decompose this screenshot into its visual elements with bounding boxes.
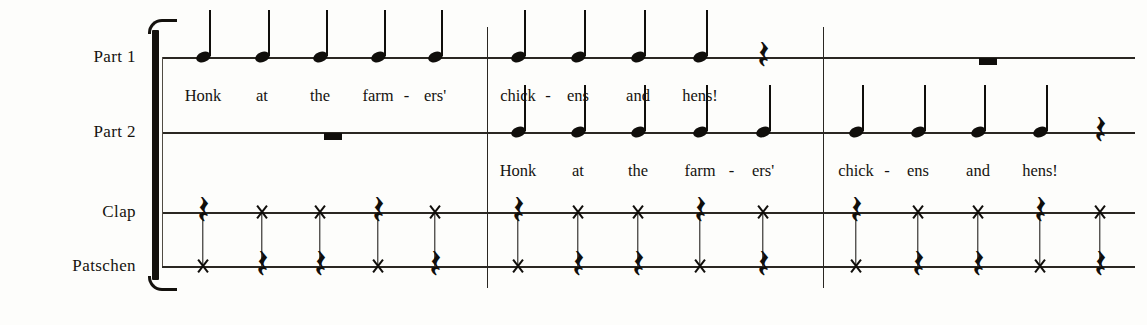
note-stem — [924, 85, 926, 131]
x-note-stem — [517, 212, 518, 266]
part-label-part2: Part 2 — [93, 122, 136, 142]
staff-line-part2 — [162, 132, 1135, 134]
staff-line-patschen — [162, 266, 1135, 268]
x-note-stem — [202, 212, 203, 266]
note-stem — [384, 10, 386, 56]
lyric-syllable: and — [966, 161, 990, 181]
part-label-patschen: Patschen — [72, 256, 136, 276]
whole-rest — [324, 133, 342, 140]
note-stem — [706, 10, 708, 56]
initial-barline — [162, 57, 163, 266]
lyric-syllable: ers' — [424, 86, 446, 106]
note-stem — [524, 10, 526, 56]
x-note-stem — [377, 212, 378, 266]
lyric-syllable: ers' — [752, 161, 774, 181]
bracket-tip-top — [148, 19, 177, 34]
lyric-hyphen: - — [729, 161, 735, 181]
barline-1 — [487, 27, 488, 288]
lyric-hyphen: - — [404, 86, 410, 106]
x-note-stem — [1039, 212, 1040, 266]
lyric-syllable: ens — [567, 86, 589, 106]
lyric-syllable: Honk — [185, 86, 222, 106]
note-stem — [326, 10, 328, 56]
note-stem — [1046, 85, 1048, 131]
lyric-hyphen: - — [545, 86, 551, 106]
part-label-clap: Clap — [102, 202, 136, 222]
note-stem — [984, 85, 986, 131]
x-note-stem — [699, 212, 700, 266]
note-stem — [644, 10, 646, 56]
part-label-part1: Part 1 — [93, 47, 136, 67]
lyric-syllable: farm — [362, 86, 393, 106]
note-stem — [862, 85, 864, 131]
lyric-syllable: ens — [907, 161, 929, 181]
lyric-syllable: Honk — [500, 161, 537, 181]
bracket-spine — [152, 30, 159, 280]
barline-2 — [823, 27, 824, 288]
lyric-syllable: at — [256, 86, 268, 106]
note-stem — [209, 10, 211, 56]
lyric-syllable: chick — [500, 86, 536, 106]
music-score: Part 1Part 2ClapPatschen 𝄽𝄽𝄽𝄽𝄽𝄽𝄽𝄽𝄽𝄽𝄽𝄽𝄽𝄽𝄽… — [0, 0, 1147, 325]
lyric-syllable: and — [626, 86, 650, 106]
bracket-tip-bottom — [148, 276, 177, 291]
note-stem — [769, 85, 771, 131]
lyric-syllable: at — [572, 161, 584, 181]
staff-line-clap — [162, 212, 1135, 214]
lyric-syllable: chick — [838, 161, 874, 181]
lyric-syllable: the — [310, 86, 330, 106]
note-stem — [268, 10, 270, 56]
lyric-syllable: farm — [684, 161, 715, 181]
lyric-hyphen: - — [884, 161, 890, 181]
x-note-stem — [855, 212, 856, 266]
lyric-syllable: hens! — [1022, 161, 1058, 181]
whole-rest — [979, 58, 997, 65]
lyric-syllable: the — [628, 161, 648, 181]
note-stem — [584, 10, 586, 56]
lyric-syllable: hens! — [682, 86, 718, 106]
note-stem — [441, 10, 443, 56]
